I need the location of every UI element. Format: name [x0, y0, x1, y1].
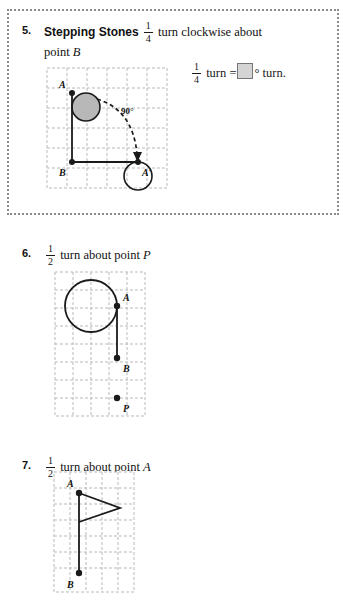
problem-5-answer-text-after: ° turn.: [254, 66, 285, 80]
angle-90-label: 90°: [121, 106, 134, 116]
point-a-label-6: A: [122, 292, 130, 303]
problem-5-figure: A B A′ 90°: [45, 66, 169, 204]
problem-5-stem-point: B: [73, 45, 81, 59]
problem-6-number: 6.: [22, 247, 31, 259]
point-b-label: B: [58, 167, 66, 178]
problem-5-stem-fraction: 1 4: [144, 21, 153, 44]
problem-6-stem: 1 2 turn about point P: [44, 244, 334, 267]
problem-6-stem-fraction: 1 2: [46, 244, 55, 267]
problem-5-answer-line: 1 4 turn =° turn.: [190, 62, 286, 85]
problem-5-stem: Stepping Stones 1 4 turn clockwise about…: [44, 21, 334, 61]
problem-5-stem-text: turn clockwise about: [155, 25, 262, 39]
problem-5-answer-fraction: 1 4: [192, 62, 201, 85]
problem-7-figure: A B: [50, 468, 142, 602]
problem-5-answer-input-box[interactable]: [237, 63, 253, 79]
point-b-dot-7: [76, 570, 82, 576]
point-a-dot: [69, 90, 75, 96]
point-p-label-6: P: [123, 403, 130, 414]
problem-5-answer-text-before: turn =: [203, 66, 236, 80]
point-b-dot: [69, 159, 75, 165]
point-b-dot-6: [114, 355, 120, 361]
problem-7-stem-point: A: [143, 460, 151, 474]
problem-6-stem-text: turn about point: [57, 248, 143, 262]
point-a-dot-7: [76, 490, 82, 496]
point-a-label-7: A: [66, 478, 74, 489]
point-aprime-label: A′: [141, 167, 152, 178]
point-a-label: A: [58, 79, 66, 90]
point-aprime-dot: [135, 159, 141, 165]
grid-lines-7: [54, 472, 134, 592]
point-b-label-6: B: [122, 363, 130, 374]
point-p-dot-6: [114, 395, 120, 401]
shaded-stone-circle: [72, 93, 100, 121]
problem-6-figure: A B P: [50, 268, 150, 428]
problem-6-stem-point: P: [143, 248, 151, 262]
point-a-dot-6: [114, 303, 120, 309]
problem-5-number: 5.: [22, 24, 31, 36]
problem-5-label: Stepping Stones: [44, 25, 139, 39]
problem-7-number: 7.: [22, 459, 31, 471]
point-b-label-7: B: [66, 579, 74, 590]
problem-5-stem-line2: point: [44, 45, 73, 59]
